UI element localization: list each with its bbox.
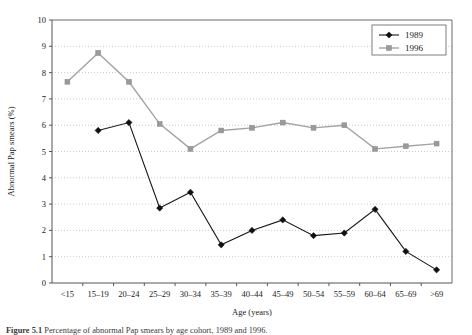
x-tick-label: 15–19 xyxy=(88,289,109,299)
legend-label-1989: 1989 xyxy=(405,30,424,40)
figure-caption: Figure 5.1 Percentage of abnormal Pap sm… xyxy=(6,325,466,335)
chart-legend: 19891996 xyxy=(372,25,446,55)
data-point-1989 xyxy=(218,242,224,248)
y-tick-label: 2 xyxy=(42,225,46,235)
series-line-1996 xyxy=(67,53,436,149)
x-tick-label: 60–64 xyxy=(364,289,386,299)
data-point-1996 xyxy=(373,146,378,151)
data-point-1996 xyxy=(250,125,255,130)
data-point-1989 xyxy=(187,189,193,195)
data-point-1989 xyxy=(434,267,440,273)
data-series xyxy=(65,50,440,272)
y-axis-tick-labels: 012345678910 xyxy=(38,15,47,288)
data-point-1996 xyxy=(434,141,439,146)
legend-label-1996: 1996 xyxy=(405,43,424,53)
y-tick-label: 1 xyxy=(42,252,46,262)
data-point-1996 xyxy=(311,125,316,130)
x-tick-label: 30–34 xyxy=(180,289,202,299)
data-point-1989 xyxy=(280,217,286,223)
x-tick-label: 50–54 xyxy=(303,289,325,299)
x-tick-label: 40–44 xyxy=(241,289,263,299)
data-point-1996 xyxy=(188,146,193,151)
x-tick-label: 20–24 xyxy=(118,289,140,299)
data-point-1989 xyxy=(310,233,316,239)
data-point-1989 xyxy=(126,119,132,125)
y-tick-label: 8 xyxy=(42,68,46,78)
data-point-1996 xyxy=(403,144,408,149)
x-tick-label: >69 xyxy=(430,289,443,299)
caption-text: Percentage of abnormal Pap smears by age… xyxy=(44,326,267,335)
data-point-1996 xyxy=(280,120,285,125)
data-point-1996 xyxy=(65,79,70,84)
x-axis-title: Age (years) xyxy=(232,307,272,317)
y-tick-label: 0 xyxy=(42,278,46,288)
y-tick-label: 7 xyxy=(42,94,46,104)
data-point-1989 xyxy=(95,127,101,133)
x-tick-label: <15 xyxy=(61,289,74,299)
data-point-1989 xyxy=(249,227,255,233)
data-point-1996 xyxy=(342,123,347,128)
x-tick-label: 25–29 xyxy=(149,289,170,299)
y-tick-label: 10 xyxy=(38,15,47,25)
y-tick-label: 6 xyxy=(42,120,46,130)
y-tick-label: 3 xyxy=(42,199,46,209)
data-point-1996 xyxy=(219,128,224,133)
caption-label: Figure 5.1 xyxy=(6,326,42,335)
data-point-1996 xyxy=(157,121,162,126)
x-tick-label: 55–59 xyxy=(334,289,355,299)
x-tick-label: 35–39 xyxy=(211,289,232,299)
x-tick-label: 65–69 xyxy=(395,289,416,299)
y-tick-label: 5 xyxy=(42,147,46,157)
figure-container: 012345678910 <1515–1920–2425–2930–3435–3… xyxy=(0,0,472,335)
data-point-1996 xyxy=(96,50,101,55)
series-line-1989 xyxy=(98,123,436,270)
y-axis-title: Abnormal Pap smears (%) xyxy=(6,106,16,196)
gridlines xyxy=(52,46,452,256)
data-point-1989 xyxy=(157,205,163,211)
data-point-1996 xyxy=(127,79,132,84)
y-tick-label: 9 xyxy=(42,41,46,51)
y-tick-label: 4 xyxy=(42,173,47,183)
x-tick-label: 45–49 xyxy=(272,289,293,299)
x-axis-tick-labels: <1515–1920–2425–2930–3435–3940–4445–4950… xyxy=(61,289,444,299)
data-point-1996 xyxy=(387,46,392,51)
line-chart: 012345678910 <1515–1920–2425–2930–3435–3… xyxy=(0,0,472,335)
